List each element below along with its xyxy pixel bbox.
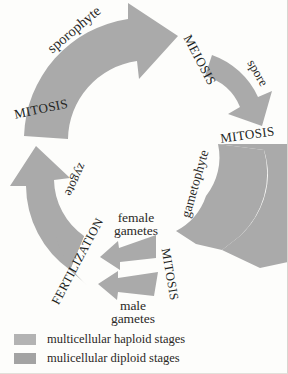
label-mitosis-bottom: MITOSIS	[158, 247, 181, 301]
label-male-gametes-line2: gametes	[111, 311, 155, 326]
life-cycle-diagram-page: sporophyte MEIOSIS spore MITOSIS gametop…	[0, 0, 288, 374]
label-mitosis-right: MITOSIS	[219, 123, 275, 145]
female-gametes-arrow	[100, 235, 156, 270]
cycle-diagram: sporophyte MEIOSIS spore MITOSIS gametop…	[0, 0, 288, 330]
male-gametes-arrow	[98, 271, 158, 300]
legend-item-diploid: mulicellular diploid stages	[14, 349, 272, 368]
legend-swatch-haploid	[14, 334, 36, 345]
legend-item-haploid: multicellular haploid stages	[14, 330, 272, 349]
label-zygote: zygote	[62, 161, 90, 199]
legend-swatch-diploid	[14, 353, 36, 364]
legend-label-haploid: multicellular haploid stages	[47, 332, 185, 347]
legend: multicellular haploid stages mulicellula…	[14, 330, 272, 368]
legend-label-diploid: mulicellular diploid stages	[47, 351, 180, 366]
label-female-gametes-line2: gametes	[114, 223, 158, 238]
sporophyte-arrow	[24, 3, 178, 139]
cycle-diagram-svg: sporophyte MEIOSIS spore MITOSIS gametop…	[0, 0, 288, 330]
